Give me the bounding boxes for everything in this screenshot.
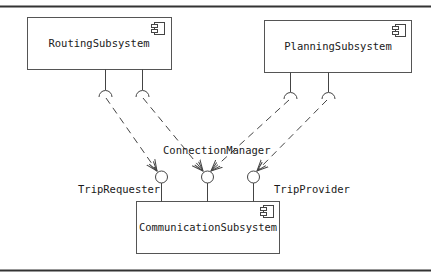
component-routing-subsystem[interactable]: RoutingSubsystem [28, 18, 172, 70]
component-label: PlanningSubsystem [284, 40, 391, 52]
provided-interface-trip-provider[interactable]: TripProvider [248, 171, 350, 202]
socket-icon [99, 91, 112, 97]
socket-icon [322, 93, 335, 99]
required-interface-planning-2 [322, 73, 335, 100]
component-planning-subsystem[interactable]: PlanningSubsystem [265, 21, 412, 73]
required-interface-planning-1 [284, 73, 297, 100]
dependency-planning-to-connection-manager [211, 100, 289, 171]
interface-label: TripProvider [274, 183, 350, 195]
interface-label: ConnectionManager [163, 144, 270, 156]
component-label: RoutingSubsystem [48, 37, 149, 49]
socket-icon [136, 91, 149, 97]
required-interface-routing-2 [136, 70, 149, 98]
dependency-routing-to-connection-manager [143, 98, 203, 171]
required-interface-routing-1 [99, 70, 112, 98]
provided-interface-trip-requester[interactable]: TripRequester [78, 171, 168, 202]
component-diagram: RoutingSubsystem PlanningSubsystem Commu… [0, 0, 431, 273]
component-communication-subsystem[interactable]: CommunicationSubsystem [137, 202, 280, 254]
interface-label: TripRequester [78, 183, 160, 195]
dependency-routing-to-trip-requester [106, 98, 157, 171]
lollipop-icon [248, 171, 260, 183]
component-label: CommunicationSubsystem [139, 221, 277, 233]
lollipop-icon [156, 171, 168, 183]
socket-icon [284, 93, 297, 99]
dependency-planning-to-trip-provider [257, 100, 327, 171]
lollipop-icon [202, 171, 214, 183]
